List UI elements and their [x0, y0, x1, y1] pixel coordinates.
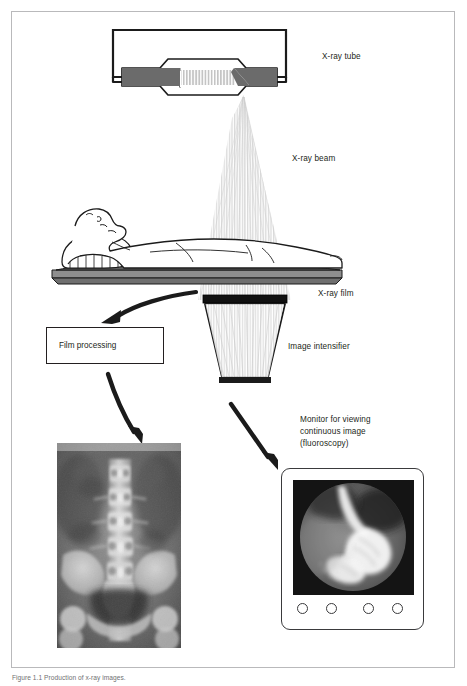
label-monitor-line2: continuous image [300, 427, 366, 436]
label-image-intensifier: Image intensifier [288, 341, 350, 352]
monitor-screen [293, 480, 414, 595]
fluoroscopy-monitor[interactable] [281, 468, 424, 630]
film-processing-label: Film processing [59, 341, 116, 350]
fluoroscopy-image [293, 480, 414, 595]
label-monitor: Monitor for viewingcontinuous image(fluo… [300, 414, 371, 451]
monitor-button-4[interactable] [392, 603, 403, 614]
figure-page: X-ray tube X-ray beam X-ray film Image i… [0, 0, 467, 686]
label-x-ray-film: X-ray film [318, 288, 354, 299]
label-x-ray-tube: X-ray tube [322, 51, 361, 62]
lumbar-spine-radiograph [57, 443, 181, 648]
label-monitor-line3: (fluoroscopy) [300, 439, 349, 448]
film-processing-box: Film processing [46, 327, 164, 364]
monitor-button-1[interactable] [297, 603, 308, 614]
label-monitor-line1: Monitor for viewing [300, 415, 371, 424]
monitor-button-2[interactable] [326, 603, 337, 614]
radiograph-render [57, 443, 181, 648]
label-x-ray-beam: X-ray beam [292, 153, 335, 164]
figure-caption: Figure 1.1 Production of x-ray images. [12, 674, 126, 681]
monitor-button-row [293, 602, 414, 618]
monitor-button-3[interactable] [363, 603, 374, 614]
